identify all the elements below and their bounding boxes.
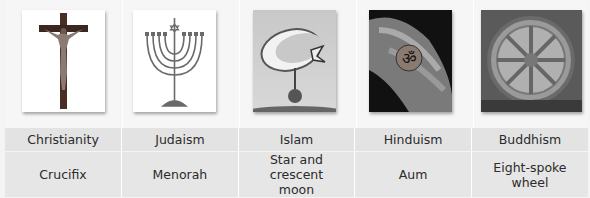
dharma-wheel-image — [481, 10, 582, 112]
aum-image: ॐ — [369, 10, 452, 112]
religious-symbols-panel: ॐ Christianity Juda — [5, 0, 588, 193]
religions-table: Christianity Judaism Islam Hinduism Budd… — [5, 128, 588, 197]
symbol-name-cell: Aum — [355, 152, 472, 198]
religion-name-cell: Buddhism — [471, 128, 588, 152]
religion-name-cell: Hinduism — [355, 128, 472, 152]
image-cell-buddhism — [473, 0, 590, 128]
religion-name-cell: Judaism — [122, 128, 239, 152]
crucifix-image — [22, 10, 105, 112]
symbol-name-cell: Star and crescent moon — [238, 152, 355, 198]
dharma-wheel-icon — [481, 10, 582, 112]
image-cell-islam — [239, 0, 356, 128]
symbol-name-cell: Menorah — [122, 152, 239, 198]
image-row: ॐ — [5, 0, 588, 128]
symbol-name-cell: Crucifix — [5, 152, 122, 198]
star-crescent-image — [253, 10, 336, 112]
religion-name-cell: Christianity — [5, 128, 122, 152]
menorah-icon — [133, 10, 216, 112]
image-cell-judaism — [122, 0, 239, 128]
symbol-name-cell: Eight-spoke wheel — [471, 152, 588, 198]
religion-names-row: Christianity Judaism Islam Hinduism Budd… — [5, 128, 588, 152]
menorah-image — [133, 10, 216, 112]
image-cell-christianity — [5, 0, 121, 128]
star-crescent-icon — [253, 10, 336, 112]
symbol-names-row: Crucifix Menorah Star and crescent moon … — [5, 152, 588, 198]
crucifix-icon — [22, 10, 105, 112]
aum-icon: ॐ — [369, 10, 452, 112]
svg-text:ॐ: ॐ — [402, 49, 417, 68]
religion-name-cell: Islam — [238, 128, 355, 152]
image-cell-hinduism: ॐ — [356, 0, 473, 128]
